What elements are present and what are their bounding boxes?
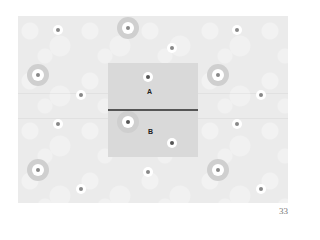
tile-divider-line [108,109,198,111]
flower-icon [53,25,63,35]
flower-icon [76,184,86,194]
flower-icon [256,184,266,194]
flower-icon [212,164,224,176]
page-number: 33 [279,206,288,216]
flower-icon [122,22,134,34]
label-a: A [147,88,152,95]
flower-icon [53,119,63,129]
flower-icon [143,167,153,177]
flower-icon [167,138,177,148]
flower-icon [122,116,134,128]
flower-icon [256,90,266,100]
flower-icon [32,69,44,81]
label-b: B [148,128,153,135]
flower-icon [143,72,153,82]
flower-icon [32,164,44,176]
flower-icon [212,69,224,81]
flower-icon [76,90,86,100]
flower-icon [232,25,242,35]
flower-icon [232,119,242,129]
flower-icon [167,43,177,53]
